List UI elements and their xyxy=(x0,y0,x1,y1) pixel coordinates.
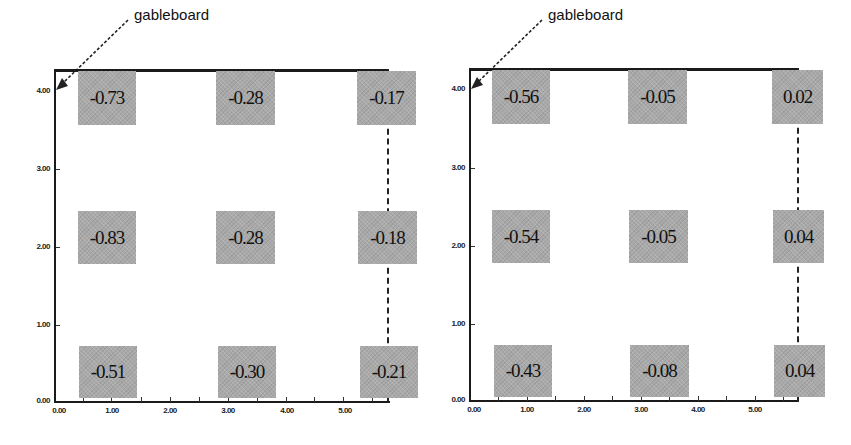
pressure-cell: -0.05 xyxy=(628,70,687,124)
pressure-cell: -0.05 xyxy=(629,210,688,263)
x-tick xyxy=(726,396,727,401)
y-tick-label: 1.00 xyxy=(437,319,465,328)
cell-value: -0.05 xyxy=(641,226,676,248)
cell-value: 0.04 xyxy=(784,226,813,248)
y-tick-label: 2.00 xyxy=(437,241,465,250)
cell-value: -0.05 xyxy=(640,86,675,108)
x-tick-label: 4.00 xyxy=(683,405,713,414)
x-tick-label: 3.00 xyxy=(626,405,656,414)
y-tick xyxy=(471,246,475,247)
pressure-cell: -0.08 xyxy=(630,345,689,397)
y-axis xyxy=(469,68,471,402)
x-tick-label: 0.00 xyxy=(459,405,489,414)
x-tick-label: 5.00 xyxy=(740,405,770,414)
x-tick xyxy=(584,396,585,401)
pressure-cell: -0.54 xyxy=(492,210,550,263)
pressure-cell: 0.04 xyxy=(774,345,825,397)
gableboard-arrow-icon xyxy=(0,0,851,445)
y-tick xyxy=(471,324,475,325)
right-pressure-diagram: gableboard 4.00 3.00 2.00 1.00 0.00 0.00… xyxy=(0,0,851,445)
cell-value: -0.08 xyxy=(642,360,677,382)
pressure-cell: -0.43 xyxy=(494,345,552,397)
y-tick-label: 0.00 xyxy=(437,395,465,404)
x-axis xyxy=(469,400,799,402)
x-tick xyxy=(698,396,699,401)
pressure-cell: 0.04 xyxy=(773,210,824,263)
y-tick-label: 3.00 xyxy=(437,163,465,172)
x-tick xyxy=(555,396,556,401)
pressure-cell: 0.02 xyxy=(772,70,823,124)
x-tick xyxy=(612,396,613,401)
cell-value: -0.43 xyxy=(506,360,541,382)
x-tick xyxy=(755,396,756,401)
cell-value: -0.54 xyxy=(504,226,539,248)
y-tick-label: 4.00 xyxy=(437,84,465,93)
x-tick-label: 2.00 xyxy=(569,405,599,414)
x-tick-label: 1.00 xyxy=(512,405,542,414)
y-tick xyxy=(471,168,475,169)
cell-value: 0.04 xyxy=(785,360,814,382)
pressure-cell: -0.56 xyxy=(492,70,550,124)
cell-value: -0.56 xyxy=(504,86,539,108)
cell-value: 0.02 xyxy=(783,86,812,108)
